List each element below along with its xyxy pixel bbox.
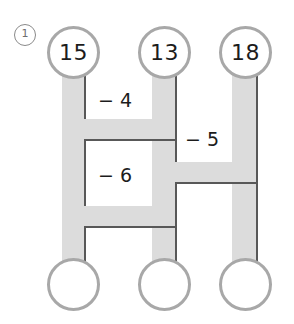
pipe-crossbar-middle-right	[152, 162, 258, 184]
pipe-outline-crossbar-upper-bottom	[84, 139, 177, 141]
pipe-outline-left-middle	[84, 141, 86, 206]
problem-number-label: 1	[22, 27, 29, 40]
pipe-column-left	[62, 52, 86, 272]
node-top-left-value: 15	[59, 40, 88, 65]
pipe-outline-right	[256, 74, 258, 274]
node-top-left[interactable]: 15	[47, 26, 100, 79]
operation-label-minus-four: − 4	[98, 89, 132, 111]
node-top-right[interactable]: 18	[219, 26, 272, 79]
operation-label-minus-six: − 6	[98, 164, 132, 186]
pipe-crossbar-upper-left-middle	[62, 119, 177, 141]
operation-label-minus-five: − 5	[185, 128, 219, 150]
pipe-outline-middle-upper	[175, 74, 177, 162]
pipe-outline-crossbar-middle-right-bottom	[175, 182, 258, 184]
pipe-outline-crossbar-lower-bottom	[84, 226, 177, 228]
node-top-middle-value: 13	[150, 40, 179, 65]
node-top-right-value: 18	[231, 40, 260, 65]
pipe-outline-left-upper	[84, 74, 86, 119]
node-bottom-middle[interactable]	[138, 258, 191, 311]
worksheet-canvas: 1 − 4 − 5 − 6 15 13 18	[0, 0, 294, 324]
node-top-middle[interactable]: 13	[138, 26, 191, 79]
node-bottom-left[interactable]	[47, 258, 100, 311]
node-bottom-right[interactable]	[219, 258, 272, 311]
circled-number-one-icon: 1	[14, 24, 36, 46]
pipe-crossbar-lower-left-middle	[62, 206, 177, 228]
